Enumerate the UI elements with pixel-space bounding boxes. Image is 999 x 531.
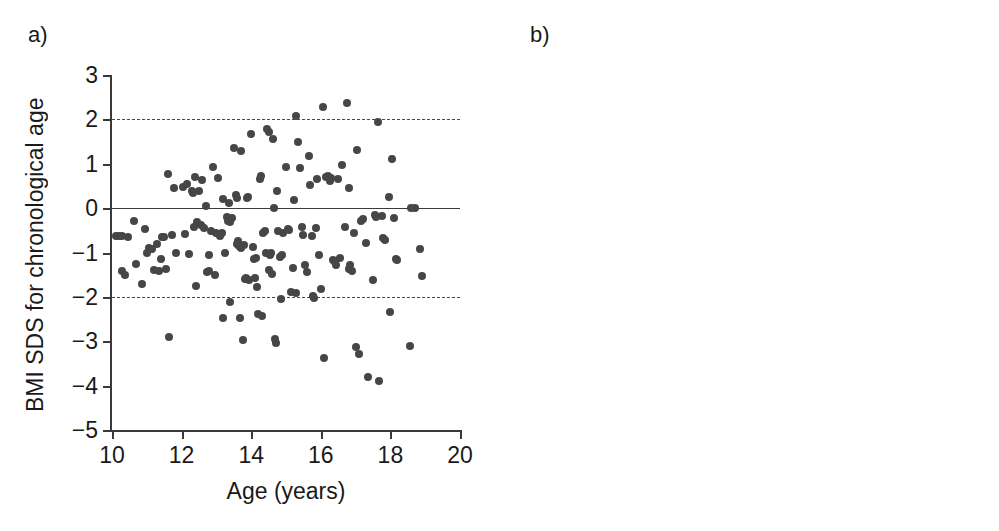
- panel-a-y-tick-label: 0: [85, 197, 98, 220]
- panel-a-y-tick-label: −2: [72, 285, 98, 308]
- panel-a-data-point: [209, 163, 217, 171]
- panel-a-data-point: [319, 103, 327, 111]
- panel-a-data-point: [359, 215, 367, 223]
- panel-a-data-point: [343, 99, 351, 107]
- panel-a-data-point: [181, 230, 189, 238]
- panel-a-data-point: [225, 199, 233, 207]
- panel-a-data-point: [388, 155, 396, 163]
- panel-a-data-point: [390, 214, 398, 222]
- panel-a-data-point: [205, 251, 213, 259]
- panel-a-data-point: [298, 223, 306, 231]
- panel-a-reference-line--2: [112, 297, 460, 298]
- panel-a-data-point: [418, 272, 426, 280]
- panel-a-data-point: [317, 285, 325, 293]
- panel-a-data-point: [258, 312, 266, 320]
- panel-a-data-point: [338, 161, 346, 169]
- panel-a-y-tick-label: 3: [85, 64, 98, 87]
- panel-a-data-point: [269, 135, 277, 143]
- panel-a-data-point: [239, 336, 247, 344]
- panel-a-data-point: [164, 170, 172, 178]
- panel-a-x-tick-label: 16: [308, 444, 334, 467]
- panel-a-data-point: [320, 354, 328, 362]
- panel-a-data-point: [236, 314, 244, 322]
- panel-a-data-point: [374, 118, 382, 126]
- panel-a-data-point: [348, 267, 356, 275]
- panel-a-y-tick-label: 1: [85, 152, 98, 175]
- panel-a-data-point: [282, 163, 290, 171]
- panel-a-data-point: [416, 245, 424, 253]
- panel-a-data-point: [160, 233, 168, 241]
- panel-a-x-tick-label: 12: [169, 444, 195, 467]
- panel-a-data-point: [345, 184, 353, 192]
- panel-a-y-tick-label: −4: [72, 374, 98, 397]
- panel-a-data-point: [240, 241, 248, 249]
- panel-a-data-point: [202, 202, 210, 210]
- panel-a-x-tick: [321, 430, 323, 439]
- panel-a-data-point: [273, 187, 281, 195]
- panel-a-data-point: [132, 260, 140, 268]
- panel-a-data-point: [218, 229, 226, 237]
- panel-a-x-tick-label: 18: [378, 444, 404, 467]
- panel-a-data-point: [296, 164, 304, 172]
- panel-a-y-tick: [103, 430, 112, 432]
- panel-a-y-tick: [103, 341, 112, 343]
- panel-a-data-point: [228, 214, 236, 222]
- panel-a: a) BMI SDS for chronological age Age (ye…: [0, 0, 500, 531]
- panel-a-data-point: [249, 243, 257, 251]
- panel-a-data-point: [272, 339, 280, 347]
- panel-a-letter: a): [28, 22, 48, 48]
- panel-a-x-tick: [390, 430, 392, 439]
- panel-a-data-point: [192, 282, 200, 290]
- panel-a-y-tick: [103, 253, 112, 255]
- panel-a-data-point: [261, 227, 269, 235]
- panel-a-data-point: [268, 270, 276, 278]
- panel-a-data-point: [305, 152, 313, 160]
- panel-a-x-tick-label: 10: [99, 444, 125, 467]
- panel-a-y-tick: [103, 119, 112, 121]
- panel-a-data-point: [362, 239, 370, 247]
- panel-a-data-point: [267, 249, 275, 257]
- panel-a-data-point: [289, 264, 297, 272]
- panel-a-y-tick: [103, 208, 112, 210]
- panel-a-data-point: [195, 187, 203, 195]
- panel-a-plot-area: Age (years) 3210−1−2−3−4−5101214161820: [110, 75, 460, 432]
- panel-b: b) BMI SDS for height age Age (years) 32…: [499, 0, 999, 531]
- panel-a-data-point: [294, 138, 302, 146]
- panel-a-y-tick-label: −1: [72, 241, 98, 264]
- panel-b-letter: b): [530, 22, 550, 48]
- panel-a-data-point: [315, 251, 323, 259]
- panel-a-data-point: [332, 261, 340, 269]
- panel-a-data-point: [278, 251, 286, 259]
- panel-a-data-point: [172, 249, 180, 257]
- panel-a-data-point: [214, 174, 222, 182]
- panel-a-data-point: [226, 298, 234, 306]
- panel-a-data-point: [312, 224, 320, 232]
- panel-a-x-tick: [251, 430, 253, 439]
- panel-a-data-point: [385, 193, 393, 201]
- panel-a-data-point: [378, 212, 386, 220]
- panel-a-y-tick: [103, 386, 112, 388]
- panel-a-data-point: [247, 130, 255, 138]
- panel-a-y-tick-label: −5: [72, 419, 98, 442]
- panel-a-reference-line-2: [112, 119, 460, 120]
- panel-a-data-point: [369, 276, 377, 284]
- panel-a-y-tick-label: 2: [85, 108, 98, 131]
- panel-a-data-point: [211, 271, 219, 279]
- panel-a-x-tick: [460, 430, 462, 439]
- panel-a-data-point: [386, 308, 394, 316]
- panel-a-data-point: [285, 226, 293, 234]
- panel-a-data-point: [252, 254, 260, 262]
- panel-a-data-point: [162, 265, 170, 273]
- panel-a-data-point: [277, 295, 285, 303]
- panel-a-data-point: [198, 176, 206, 184]
- panel-a-data-point: [251, 274, 259, 282]
- panel-a-data-point: [393, 256, 401, 264]
- panel-a-y-axis-title: BMI SDS for chronological age: [22, 80, 49, 430]
- panel-a-data-point: [308, 232, 316, 240]
- panel-a-data-point: [165, 333, 173, 341]
- panel-a-data-point: [303, 268, 311, 276]
- panel-a-data-point: [355, 350, 363, 358]
- panel-a-x-axis-title: Age (years): [227, 478, 346, 505]
- panel-a-data-point: [411, 204, 419, 212]
- panel-a-data-point: [253, 283, 261, 291]
